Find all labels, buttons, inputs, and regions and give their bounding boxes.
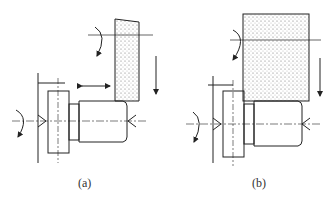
wheel-rotation-arrow [233, 30, 241, 60]
grinding-wheel [115, 19, 139, 101]
work-rotation-arrow [16, 110, 24, 137]
wheel-rotation-arrow [95, 27, 102, 56]
workpiece-cylinder [79, 101, 127, 142]
workpiece-flange [48, 91, 69, 153]
panel-a [12, 19, 156, 163]
grinding-diagram [0, 0, 333, 198]
caption-a: (a) [78, 176, 91, 191]
caption-b: (b) [252, 176, 266, 191]
grinding-wheel-wide [243, 14, 309, 101]
panel-b [186, 14, 322, 166]
